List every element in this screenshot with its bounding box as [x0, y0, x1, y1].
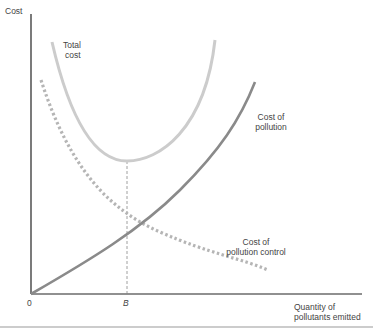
pollution-label-line2: pollution — [241, 122, 301, 132]
chart-canvas — [0, 0, 373, 334]
b-tick-label: B — [123, 298, 129, 308]
control-label-line2: pollution control — [216, 247, 296, 257]
total-cost-label-line2: cost — [65, 50, 81, 60]
x-axis-label-line1: Quantity of — [294, 302, 335, 312]
pollution-label-line1: Cost of — [241, 112, 301, 122]
x-axis-label-line2: pollutants emitted — [294, 312, 361, 322]
curve-pollution — [31, 82, 255, 294]
origin-label: 0 — [27, 298, 32, 308]
total-cost-label-line1: Total — [63, 40, 81, 50]
y-axis-label: Cost — [5, 6, 22, 16]
control-label-line1: Cost of — [216, 237, 296, 247]
